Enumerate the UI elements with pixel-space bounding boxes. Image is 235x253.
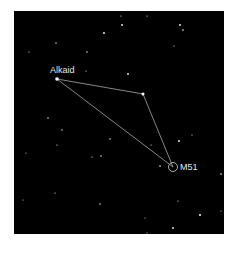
label-alkaid: Alkaid <box>50 66 75 75</box>
background-star <box>91 156 92 157</box>
background-star <box>147 233 148 234</box>
background-star <box>85 70 86 71</box>
background-star <box>54 192 55 193</box>
background-star <box>26 153 27 154</box>
line-alkaid-to-m51 <box>57 79 173 167</box>
background-star <box>173 45 174 46</box>
background-stars <box>23 15 222 233</box>
background-star <box>221 211 222 212</box>
background-star <box>61 129 62 130</box>
star-middle <box>142 93 145 96</box>
background-star <box>86 51 87 52</box>
background-star <box>121 24 123 26</box>
background-star <box>182 29 184 31</box>
background-star <box>56 144 57 145</box>
background-star <box>159 165 161 167</box>
background-star <box>127 73 129 75</box>
background-star <box>150 144 151 145</box>
background-star <box>103 32 105 34</box>
background-star <box>146 15 147 16</box>
star-alkaid <box>55 77 59 81</box>
background-star <box>100 155 101 156</box>
background-star <box>191 134 192 135</box>
background-star <box>172 227 174 229</box>
background-star <box>178 140 180 142</box>
background-star <box>199 214 201 216</box>
asterism-lines <box>57 79 173 167</box>
background-star <box>179 24 181 26</box>
line-alkaid-to-middle-star <box>57 79 143 94</box>
background-star <box>47 117 48 118</box>
background-star <box>23 200 24 201</box>
background-star <box>55 42 56 43</box>
background-star <box>145 218 146 219</box>
background-star <box>177 200 178 201</box>
background-star <box>109 138 110 139</box>
star-chart <box>0 0 235 253</box>
label-m51: M51 <box>180 163 198 172</box>
background-star <box>220 173 222 175</box>
background-star <box>28 51 29 52</box>
background-star <box>99 203 100 204</box>
background-star <box>120 15 121 16</box>
